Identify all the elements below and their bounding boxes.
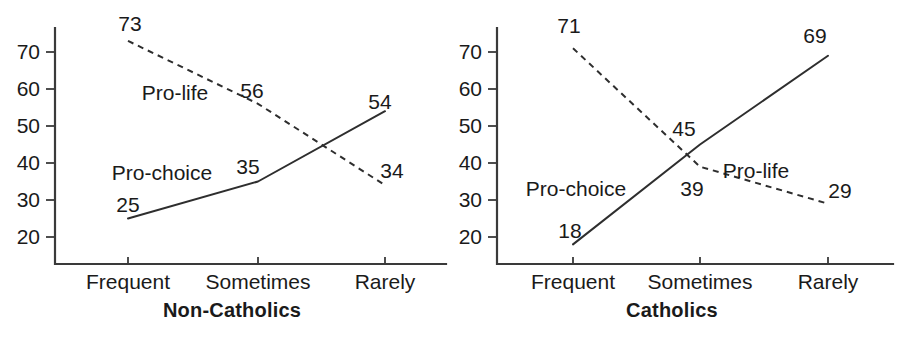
x-tick-label: Sometimes [205,270,310,293]
data-value-labels: 735634253554 [116,12,404,216]
chart-panel-non-catholics: 203040506070 FrequentSometimesRarely 735… [0,0,450,344]
data-value-label: 25 [116,193,139,216]
series-group-non-catholics [128,41,385,219]
data-value-label: 29 [828,179,851,202]
data-value-label: 45 [672,117,695,140]
y-tick-marks [488,52,497,237]
data-value-label: 73 [118,12,141,35]
plot-svg-catholics: 203040506070 FrequentSometimesRarely 713… [450,0,900,344]
series-line-pro-choice [573,56,828,245]
axes-catholics [488,28,893,264]
plot-svg-non-catholics: 203040506070 FrequentSometimesRarely 735… [0,0,450,344]
y-tick-label: 30 [17,188,40,211]
x-tick-labels: FrequentSometimesRarely [531,270,859,293]
series-inline-labels: Pro-lifePro-choice [112,81,212,184]
data-value-label: 54 [368,90,392,113]
data-value-labels: 713929184569 [557,14,851,242]
x-tick-label: Rarely [355,270,416,293]
data-value-label: 39 [680,177,703,200]
panel-title-catholics: Catholics [626,299,718,321]
y-tick-label: 50 [17,114,40,137]
y-tick-labels: 203040506070 [459,40,482,248]
data-value-label: 35 [236,155,259,178]
panel-title-non-catholics: Non-Catholics [163,299,301,321]
series-group-catholics [573,48,828,244]
x-tick-labels: FrequentSometimesRarely [86,270,416,293]
y-tick-label: 60 [17,77,40,100]
y-tick-label: 20 [17,225,40,248]
figure-two-panel-line-charts: 203040506070 FrequentSometimesRarely 735… [0,0,900,344]
data-value-label: 71 [557,14,580,37]
axes-non-catholics [46,28,446,264]
y-tick-marks [46,52,55,237]
x-tick-label: Rarely [798,270,859,293]
axis-lines [55,28,446,264]
data-value-label: 56 [240,79,263,102]
data-value-label: 69 [803,24,826,47]
y-tick-label: 70 [459,40,482,63]
axis-lines [497,28,893,264]
y-tick-label: 40 [459,151,482,174]
y-tick-label: 60 [459,77,482,100]
x-tick-label: Sometimes [647,270,752,293]
series-inline-label: Pro-choice [112,161,212,184]
data-value-label: 34 [380,159,404,182]
y-tick-label: 50 [459,114,482,137]
y-tick-label: 40 [17,151,40,174]
series-inline-label: Pro-life [723,159,790,182]
y-tick-label: 30 [459,188,482,211]
y-tick-label: 70 [17,40,40,63]
x-tick-label: Frequent [531,270,615,293]
chart-panel-catholics: 203040506070 FrequentSometimesRarely 713… [450,0,900,344]
series-inline-label: Pro-life [142,81,209,104]
y-tick-label: 20 [459,225,482,248]
x-tick-label: Frequent [86,270,170,293]
y-tick-labels: 203040506070 [17,40,40,248]
series-inline-label: Pro-choice [526,177,626,200]
data-value-label: 18 [558,219,581,242]
